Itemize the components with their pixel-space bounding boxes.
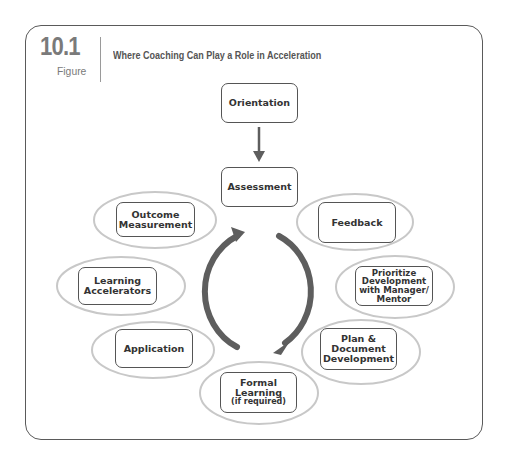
- cycle-arrowhead-right-icon: [273, 341, 290, 355]
- node-prioritize-line4: Mentor: [359, 295, 429, 304]
- cycle-arrow-left: [205, 236, 237, 347]
- node-formal-learning: Formal Learning (if required): [220, 372, 297, 413]
- node-outcome-line2: Measurement: [119, 220, 193, 230]
- cycle-arrow-right: [279, 236, 311, 343]
- node-formal-note: (if required): [231, 398, 286, 406]
- node-outcome-measurement: Outcome Measurement: [116, 202, 195, 237]
- node-application: Application: [115, 329, 193, 368]
- node-assessment-label: Assessment: [227, 182, 291, 192]
- node-plan-line3: Development: [323, 354, 394, 364]
- node-orientation-label: Orientation: [229, 98, 290, 108]
- node-learning-line2: Accelerators: [84, 286, 151, 296]
- node-outcome-line1: Outcome: [119, 210, 193, 220]
- node-orientation: Orientation: [221, 83, 298, 123]
- node-assessment: Assessment: [221, 167, 298, 207]
- node-learning-accelerators: Learning Accelerators: [78, 267, 157, 305]
- node-feedback: Feedback: [318, 202, 396, 243]
- node-plan: Plan & Document Development: [320, 328, 397, 370]
- arrowhead-down-icon: [253, 151, 265, 162]
- node-application-label: Application: [124, 344, 185, 354]
- node-prioritize: Prioritize Development with Manager/ Men…: [355, 266, 433, 306]
- node-feedback-label: Feedback: [332, 218, 383, 228]
